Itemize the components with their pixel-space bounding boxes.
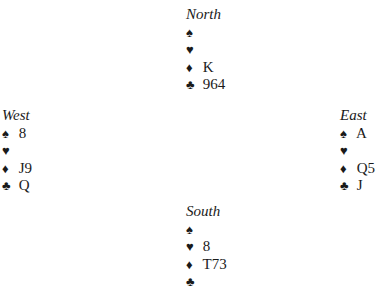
south-hearts: 8	[203, 238, 211, 254]
north-diamonds-row: ♦ K	[186, 59, 225, 77]
south-spades-row: ♠	[186, 221, 227, 239]
east-hand: East ♠ A ♥ ♦ Q5 ♣ J	[340, 107, 375, 195]
south-diamonds-row: ♦ T73	[186, 256, 227, 274]
south-label: South	[186, 203, 227, 221]
club-icon: ♣	[186, 273, 199, 291]
south-clubs-row: ♣	[186, 273, 227, 291]
diamond-icon: ♦	[186, 256, 199, 274]
diamond-icon: ♦	[2, 160, 15, 178]
west-hand: West ♠ 8 ♥ ♦ J9 ♣ Q	[2, 107, 32, 195]
west-diamonds-row: ♦ J9	[2, 160, 32, 178]
club-icon: ♣	[186, 76, 199, 94]
south-hearts-row: ♥ 8	[186, 238, 227, 256]
heart-icon: ♥	[2, 142, 15, 160]
diamond-icon: ♦	[186, 59, 199, 77]
west-spades: 8	[19, 125, 27, 141]
east-clubs: J	[357, 177, 363, 193]
south-hand: South ♠ ♥ 8 ♦ T73 ♣	[186, 203, 227, 291]
west-label: West	[2, 107, 32, 125]
west-clubs: Q	[19, 177, 30, 193]
east-diamonds-row: ♦ Q5	[340, 160, 375, 178]
heart-icon: ♥	[340, 142, 353, 160]
west-diamonds: J9	[19, 160, 32, 176]
spade-icon: ♠	[186, 24, 199, 42]
north-hearts-row: ♥	[186, 41, 225, 59]
east-clubs-row: ♣ J	[340, 177, 375, 195]
heart-icon: ♥	[186, 238, 199, 256]
east-spades: A	[356, 125, 367, 141]
north-clubs-row: ♣ 964	[186, 76, 225, 94]
club-icon: ♣	[340, 177, 353, 195]
north-clubs: 964	[203, 76, 226, 92]
east-label: East	[340, 107, 375, 125]
spade-icon: ♠	[2, 125, 15, 143]
spade-icon: ♠	[186, 221, 199, 239]
club-icon: ♣	[2, 177, 15, 195]
west-spades-row: ♠ 8	[2, 125, 32, 143]
north-diamonds: K	[203, 59, 214, 75]
west-hearts-row: ♥	[2, 142, 32, 160]
heart-icon: ♥	[186, 41, 199, 59]
north-hand: North ♠ ♥ ♦ K ♣ 964	[186, 6, 225, 94]
east-hearts-row: ♥	[340, 142, 375, 160]
north-spades-row: ♠	[186, 24, 225, 42]
south-diamonds: T73	[202, 256, 226, 272]
spade-icon: ♠	[340, 125, 353, 143]
east-diamonds: Q5	[357, 160, 375, 176]
north-label: North	[186, 6, 225, 24]
east-spades-row: ♠ A	[340, 125, 375, 143]
west-clubs-row: ♣ Q	[2, 177, 32, 195]
diamond-icon: ♦	[340, 160, 353, 178]
